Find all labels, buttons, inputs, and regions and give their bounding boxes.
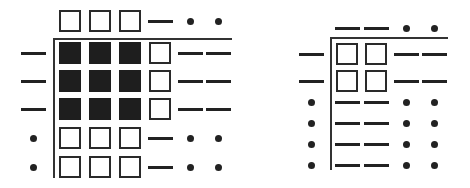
dash-mark bbox=[335, 143, 360, 146]
dash-mark bbox=[394, 80, 419, 83]
dot-mark bbox=[431, 99, 438, 106]
dot-mark bbox=[431, 162, 438, 169]
vertical-axis-line bbox=[330, 37, 332, 170]
open-square bbox=[336, 43, 358, 65]
dot-mark bbox=[308, 141, 315, 148]
dot-mark bbox=[403, 120, 410, 127]
dash-mark bbox=[364, 27, 389, 30]
dash-mark bbox=[335, 122, 360, 125]
dash-mark bbox=[364, 164, 389, 167]
diagram-canvas bbox=[0, 0, 470, 188]
horizontal-axis-line bbox=[330, 37, 448, 39]
open-square bbox=[365, 43, 387, 65]
dot-mark bbox=[431, 25, 438, 32]
dash-mark bbox=[422, 53, 447, 56]
dot-mark bbox=[403, 99, 410, 106]
dot-mark bbox=[308, 120, 315, 127]
dot-mark bbox=[431, 120, 438, 127]
dot-mark bbox=[403, 162, 410, 169]
dot-mark bbox=[403, 141, 410, 148]
dot-mark bbox=[403, 25, 410, 32]
dash-mark bbox=[335, 164, 360, 167]
dot-mark bbox=[431, 141, 438, 148]
dash-mark bbox=[364, 101, 389, 104]
dash-mark bbox=[394, 53, 419, 56]
dash-mark bbox=[335, 27, 360, 30]
dash-mark bbox=[364, 143, 389, 146]
dash-mark bbox=[299, 53, 324, 56]
dash-mark bbox=[422, 80, 447, 83]
dot-mark bbox=[308, 162, 315, 169]
dash-mark bbox=[299, 80, 324, 83]
open-square bbox=[365, 70, 387, 92]
open-square bbox=[336, 70, 358, 92]
dot-mark bbox=[308, 99, 315, 106]
right-matrix bbox=[0, 0, 470, 188]
dash-mark bbox=[364, 122, 389, 125]
dash-mark bbox=[335, 101, 360, 104]
